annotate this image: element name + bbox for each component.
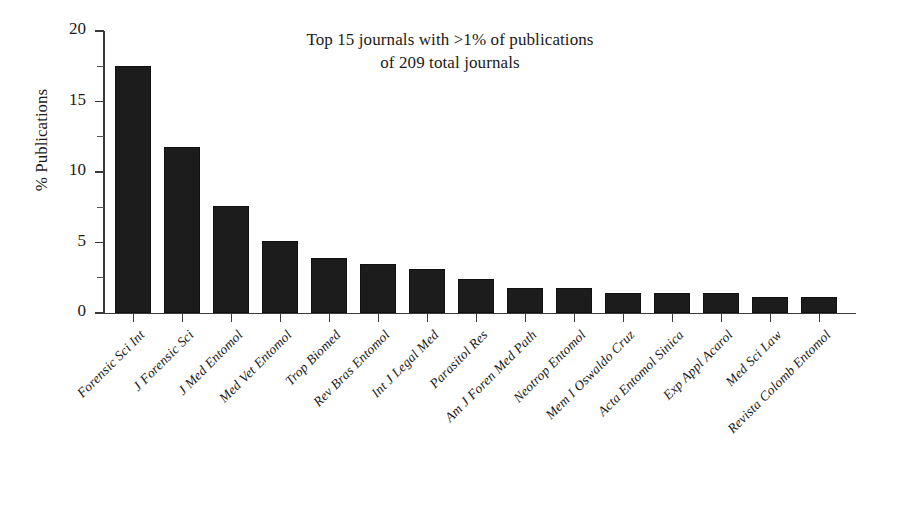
bar [409,269,445,313]
chart-title-line-2: of 209 total journals [250,51,650,74]
x-tick [476,313,477,322]
bar [703,293,739,313]
y-minor-tick-17.5 [97,66,104,67]
y-tick-5 [95,242,104,244]
bar [605,293,641,313]
y-axis-label: % Publications [32,60,52,220]
bar [458,279,494,313]
y-minor-tick-7.5 [97,207,104,208]
x-tick [672,313,673,322]
bar [311,258,347,313]
x-tick [623,313,624,322]
bar [752,297,788,313]
y-minor-tick-12.5 [97,136,104,137]
y-tick-label-15: 15 [52,90,86,110]
y-tick-label-5: 5 [52,231,86,251]
y-minor-tick-2.5 [97,277,104,278]
chart-title-line-1: Top 15 journals with >1% of publications [250,28,650,51]
x-tick [329,313,330,322]
y-tick-15 [95,101,104,103]
x-tick [378,313,379,322]
y-tick-label-20: 20 [52,19,86,39]
bar [213,206,249,313]
bar [507,288,543,313]
bar [164,147,200,313]
y-tick-20 [95,30,104,32]
x-tick [133,313,134,322]
x-tick [427,313,428,322]
x-tick [280,313,281,322]
bar [556,288,592,313]
x-tick [231,313,232,322]
x-tick [574,313,575,322]
y-tick-0 [95,312,104,314]
bar [801,297,837,313]
bar-chart: Top 15 journals with >1% of publications… [0,0,898,518]
bar [262,241,298,313]
chart-title: Top 15 journals with >1% of publications… [250,28,650,75]
bar [115,66,151,313]
bar [654,293,690,313]
bar [360,264,396,313]
y-tick-label-0: 0 [52,301,86,321]
x-tick [721,313,722,322]
y-tick-label-10: 10 [52,160,86,180]
x-tick [182,313,183,322]
x-tick [819,313,820,322]
x-tick [525,313,526,322]
y-tick-10 [95,171,104,173]
x-tick [770,313,771,322]
